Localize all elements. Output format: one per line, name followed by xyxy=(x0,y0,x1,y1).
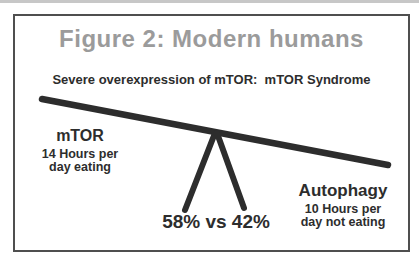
mtor-heading: mTOR xyxy=(30,127,130,145)
fulcrum-ratio-label: 58% vs 42% xyxy=(156,211,276,233)
autophagy-heading: Autophagy xyxy=(288,181,398,200)
mtor-label-block: mTOR 14 Hours per day eating xyxy=(30,127,130,173)
mtor-subline-2: day eating xyxy=(30,161,130,174)
autophagy-subline-1: 10 Hours per xyxy=(288,203,398,216)
fulcrum-right-leg xyxy=(217,133,244,208)
mtor-subline-1: 14 Hours per xyxy=(30,148,130,161)
figure-canvas: Figure 2: Modern humans Severe overexpre… xyxy=(0,0,419,265)
autophagy-label-block: Autophagy 10 Hours per day not eating xyxy=(288,181,398,228)
fulcrum-left-leg xyxy=(185,133,215,210)
autophagy-subline-2: day not eating xyxy=(288,216,398,229)
